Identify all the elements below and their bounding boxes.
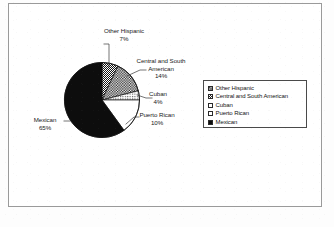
slice-label-other-hispanic: Other Hispanic 7%	[93, 27, 155, 42]
slice-label-central-south: Central and South American 14%	[130, 57, 192, 80]
legend-label-puerto-rican: Puerto Rican	[216, 110, 250, 117]
slice-label-mexican: Mexican 65%	[22, 116, 68, 131]
slice-label-central-south-text1: Central and South	[136, 57, 185, 64]
slice-label-mexican-text: Mexican	[34, 116, 57, 123]
slice-label-central-south-text2: American	[130, 65, 192, 73]
legend-swatch-mexican-icon	[208, 120, 213, 125]
legend-item-other-hispanic[interactable]: Other Hispanic	[208, 84, 303, 92]
slice-label-puerto-rican-text: Puerto Rican	[139, 111, 174, 118]
legend-item-puerto-rican[interactable]: Puerto Rican	[208, 110, 303, 118]
legend-swatch-other-hispanic-icon	[208, 86, 213, 91]
slice-label-cuban: Cuban 4%	[140, 90, 176, 105]
slice-label-puerto-rican: Puerto Rican 10%	[134, 111, 180, 126]
legend-swatch-cuban-icon	[208, 103, 213, 108]
legend-swatch-central-south-icon	[208, 94, 213, 99]
slice-label-mexican-pct: 65%	[22, 124, 68, 132]
chart-legend: Other Hispanic Central and South America…	[203, 80, 307, 128]
legend-item-cuban[interactable]: Cuban	[208, 101, 303, 109]
legend-label-cuban: Cuban	[216, 102, 233, 109]
slice-label-puerto-rican-pct: 10%	[134, 119, 180, 127]
legend-swatch-puerto-rican-icon	[208, 111, 213, 116]
slice-label-other-hispanic-text: Other Hispanic	[104, 27, 144, 34]
slice-label-cuban-pct: 4%	[140, 98, 176, 106]
legend-item-central-south[interactable]: Central and South American	[208, 93, 303, 101]
legend-item-mexican[interactable]: Mexican	[208, 118, 303, 126]
scanned-page: Other Hispanic 7% Central and South Amer…	[0, 0, 334, 227]
legend-label-other-hispanic: Other Hispanic	[216, 85, 254, 92]
legend-label-mexican: Mexican	[216, 119, 238, 126]
slice-label-central-south-pct: 14%	[130, 72, 192, 80]
legend-label-central-south: Central and South American	[216, 93, 288, 100]
slice-label-cuban-text: Cuban	[149, 90, 167, 97]
pie-chart-figure: Other Hispanic 7% Central and South Amer…	[0, 0, 334, 227]
slice-label-other-hispanic-pct: 7%	[93, 35, 155, 43]
